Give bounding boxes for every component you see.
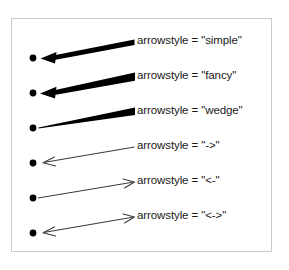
arrow-wedge [39, 108, 136, 129]
arrow-fancy-body [53, 73, 135, 96]
tail-marker-dot [30, 195, 37, 202]
arrow-fancy-head [40, 87, 57, 99]
arrow-label-simple: arrowstyle = "simple" [137, 34, 242, 46]
arrow-open-right [38, 179, 135, 198]
arrow-label-both-arrow: arrowstyle = "<->" [137, 209, 226, 221]
arrow-wedge-body [39, 108, 136, 129]
tail-marker-dot [30, 55, 37, 62]
arrow-open-left [43, 147, 135, 166]
tail-marker-dot [30, 125, 37, 132]
arrow-label-wedge: arrowstyle = "wedge" [137, 104, 243, 116]
arrow-simple-head [41, 52, 57, 64]
arrow-label-fancy: arrowstyle = "fancy" [137, 69, 236, 81]
tail-marker-dot [30, 90, 37, 97]
arrow-label-right-arrow: arrowstyle = "->" [137, 139, 220, 151]
arrow-simple [41, 40, 135, 64]
tail-marker-dot [30, 160, 37, 167]
arrow-label-left-arrow: arrowstyle = "<-" [137, 174, 220, 186]
tail-marker-dot [30, 230, 37, 237]
matplotlib-figure: arrowstyle = "simple" arrowstyle = "fanc… [0, 0, 289, 270]
arrow-open-right-shaft [38, 182, 133, 198]
arrow-open-both-shaft [45, 217, 133, 232]
arrow-open-both [43, 214, 135, 236]
arrow-fancy [40, 73, 135, 99]
arrow-simple-body [53, 40, 135, 61]
arrow-open-left-shaft [45, 147, 135, 162]
tail-markers [30, 55, 37, 237]
